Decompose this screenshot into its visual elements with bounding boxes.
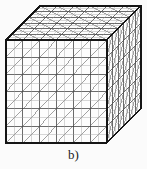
figure-container: b) xyxy=(0,0,147,169)
figure-caption: b) xyxy=(0,147,147,163)
cube-mesh-diagram xyxy=(0,0,147,169)
